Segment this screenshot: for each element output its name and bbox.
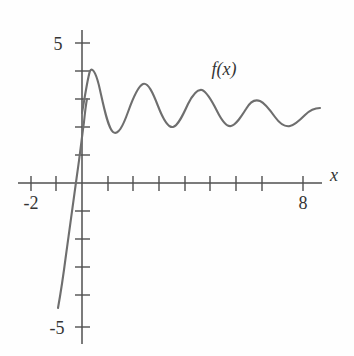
x-axis-left-label: -2 xyxy=(24,193,39,213)
y-axis-bottom-label: -5 xyxy=(50,318,65,338)
axes-group xyxy=(18,30,322,344)
x-axis-name-label: x xyxy=(329,165,338,185)
curve-damped-oscillation xyxy=(82,70,320,133)
figure-container: 5 -5 -2 8 x f(x) xyxy=(0,0,354,356)
y-axis-top-label: 5 xyxy=(54,34,63,54)
x-axis-right-label: 8 xyxy=(299,193,308,213)
curve-function-label: f(x) xyxy=(212,59,237,80)
function-graph: 5 -5 -2 8 x f(x) xyxy=(0,0,354,356)
